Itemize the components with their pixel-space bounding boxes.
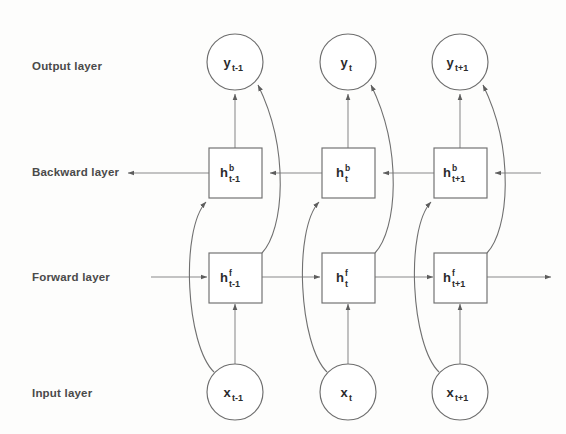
input-node-subscript: t-1 <box>232 393 243 403</box>
input-node-circle[interactable] <box>432 364 488 420</box>
forward-layer-nodes: h f t-1 h f t h f t+1 <box>209 253 487 303</box>
output-node-base: y <box>340 55 348 70</box>
forward-node-base: h <box>443 270 451 285</box>
node-h-f-t-minus-1[interactable]: h f t-1 <box>209 253 262 303</box>
row-label-backward-layer: Backward layer <box>32 166 120 178</box>
output-node-base: y <box>446 55 454 70</box>
node-x-t-plus-1[interactable]: x t+1 <box>432 364 488 420</box>
input-node-circle[interactable] <box>207 364 263 420</box>
node-h-f-t-plus-1[interactable]: h f t+1 <box>434 253 487 303</box>
backward-node-rect[interactable] <box>322 148 375 198</box>
backward-node-base: h <box>443 165 451 180</box>
input-layer-nodes: x t-1 x t x t+1 <box>207 364 488 420</box>
row-label-output-layer: Output layer <box>32 60 102 72</box>
node-y-t-minus-1[interactable]: y t-1 <box>207 34 263 90</box>
forward-node-subscript: t+1 <box>452 279 465 289</box>
backward-node-superscript: b <box>452 163 457 173</box>
forward-node-superscript: f <box>345 268 348 278</box>
output-node-circle[interactable] <box>207 34 263 90</box>
node-h-f-t[interactable]: h f t <box>322 253 375 303</box>
bidirectional-rnn-diagram: Output layer Backward layer Forward laye… <box>0 0 566 434</box>
output-node-subscript: t <box>349 63 352 73</box>
row-label-forward-layer: Forward layer <box>32 271 110 283</box>
row-label-input-layer: Input layer <box>32 387 93 399</box>
node-x-t[interactable]: x t <box>320 364 376 420</box>
backward-node-superscript: b <box>229 163 234 173</box>
output-node-circle[interactable] <box>432 34 488 90</box>
node-y-t-plus-1[interactable]: y t+1 <box>432 34 488 90</box>
output-node-subscript: t+1 <box>455 63 468 73</box>
output-node-circle[interactable] <box>320 34 376 90</box>
backward-layer-nodes: h b t-1 h b t h b t+1 <box>209 148 487 198</box>
node-h-b-t[interactable]: h b t <box>322 148 375 198</box>
backward-node-subscript: t+1 <box>452 174 465 184</box>
forward-node-base: h <box>220 270 228 285</box>
backward-node-rect[interactable] <box>209 148 262 198</box>
backward-node-base: h <box>220 165 228 180</box>
output-node-base: y <box>223 55 231 70</box>
forward-node-rect[interactable] <box>322 253 375 303</box>
forward-node-subscript: t-1 <box>229 279 240 289</box>
figure-canvas: Output layer Backward layer Forward laye… <box>0 0 566 434</box>
input-node-base: x <box>223 385 231 400</box>
output-node-subscript: t-1 <box>232 63 243 73</box>
backward-node-superscript: b <box>345 163 350 173</box>
backward-node-rect[interactable] <box>434 148 487 198</box>
forward-node-rect[interactable] <box>434 253 487 303</box>
node-x-t-minus-1[interactable]: x t-1 <box>207 364 263 420</box>
input-node-subscript: t <box>349 393 352 403</box>
input-node-base: x <box>446 385 454 400</box>
forward-node-superscript: f <box>452 268 455 278</box>
backward-node-subscript: t <box>345 174 348 184</box>
forward-node-superscript: f <box>229 268 232 278</box>
node-y-t[interactable]: y t <box>320 34 376 90</box>
forward-node-subscript: t <box>345 279 348 289</box>
output-layer-nodes: y t-1 y t y t+1 <box>207 34 488 90</box>
forward-node-rect[interactable] <box>209 253 262 303</box>
node-h-b-t-plus-1[interactable]: h b t+1 <box>434 148 487 198</box>
backward-node-subscript: t-1 <box>229 174 240 184</box>
input-node-circle[interactable] <box>320 364 376 420</box>
forward-node-base: h <box>336 270 344 285</box>
backward-node-base: h <box>336 165 344 180</box>
input-node-base: x <box>340 385 348 400</box>
input-node-subscript: t+1 <box>455 393 468 403</box>
node-h-b-t-minus-1[interactable]: h b t-1 <box>209 148 262 198</box>
